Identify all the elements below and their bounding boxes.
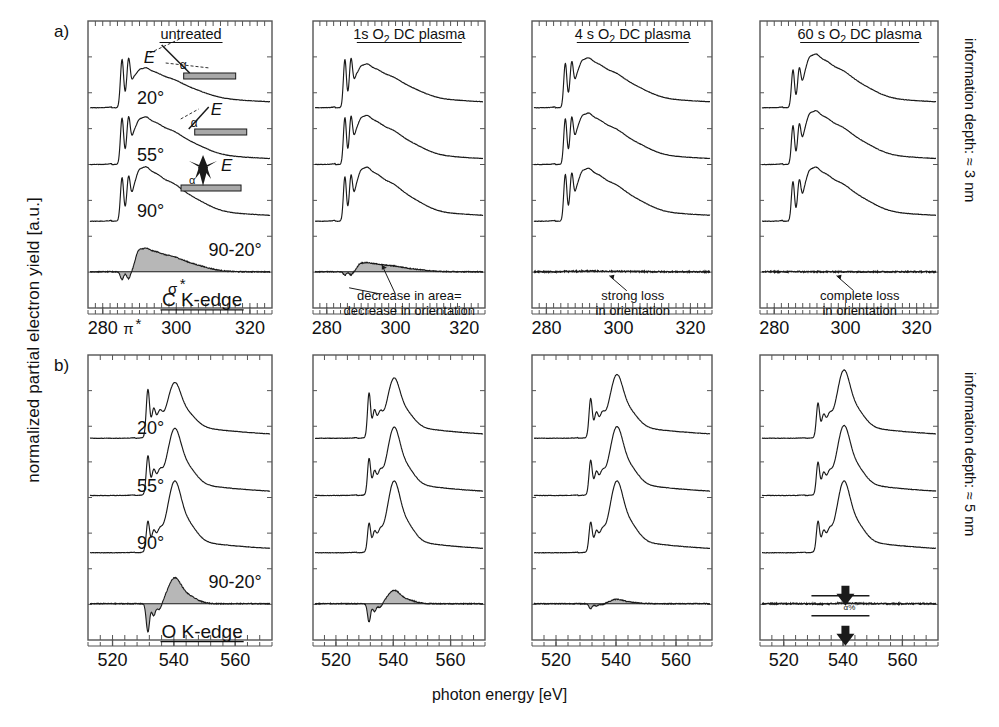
spectrum-trace-55° bbox=[90, 116, 270, 164]
pi-star-asterisk: * bbox=[135, 315, 141, 332]
annotation-line: decrease in area= bbox=[357, 288, 461, 303]
information-depth-row-b: information depth: ≈ 5 nm bbox=[962, 372, 978, 536]
annotation-line: in orientation bbox=[596, 303, 670, 318]
panel-a-2: 2803003201s O2 DC plasmadecrease in area… bbox=[312, 21, 485, 338]
panel-b-4: 520540560α% bbox=[760, 355, 938, 670]
x-tick-label: 520 bbox=[541, 650, 571, 670]
x-tick-label: 560 bbox=[220, 650, 250, 670]
spectrum-trace-20° bbox=[90, 382, 270, 438]
spectrum-trace-90° bbox=[534, 481, 710, 553]
angle-label-20°: 20° bbox=[137, 418, 164, 438]
panel-a-3: 2803003204 s O2 DC plasmastrong lossin o… bbox=[531, 21, 712, 338]
substrate-bar bbox=[184, 73, 236, 79]
e-vector-label: E bbox=[211, 100, 223, 119]
x-tick-label: 520 bbox=[769, 650, 799, 670]
spectrum-trace-20° bbox=[534, 374, 710, 438]
y-axis-label: normalized partial electron yield [a.u.] bbox=[24, 100, 44, 580]
arrow-up-icon bbox=[836, 626, 854, 646]
angle-label-difference: 90-20° bbox=[209, 240, 262, 260]
x-tick-label: 280 bbox=[312, 318, 342, 338]
spectrum-trace-55° bbox=[534, 427, 710, 496]
spectrum-trace-20° bbox=[534, 58, 710, 108]
x-tick-label: 300 bbox=[161, 318, 191, 338]
x-tick-label: 540 bbox=[601, 650, 631, 670]
spectrum-trace-55° bbox=[315, 427, 483, 496]
panel-frame bbox=[532, 355, 712, 640]
information-depth-row-a: information depth: ≈ 3 nm bbox=[962, 38, 978, 202]
x-tick-label: 320 bbox=[235, 318, 265, 338]
pi-star-label: π bbox=[123, 320, 133, 337]
spectrum-trace-90° bbox=[534, 168, 710, 221]
angle-label-20°: 20° bbox=[137, 88, 164, 108]
spectrum-trace-90° bbox=[762, 167, 936, 221]
spectrum-trace-20° bbox=[315, 378, 483, 439]
spectrum-trace-90° bbox=[315, 481, 483, 553]
spectrum-trace-55° bbox=[762, 111, 936, 165]
sigma-star-label: σ bbox=[168, 280, 178, 297]
alpha-label: α bbox=[189, 174, 196, 186]
spectrum-trace-90° bbox=[762, 481, 936, 553]
x-tick-label: 300 bbox=[830, 318, 860, 338]
difference-fill bbox=[315, 590, 483, 622]
angle-label-difference: 90-20° bbox=[209, 572, 262, 592]
sigma-star-asterisk: * bbox=[180, 275, 186, 292]
spectrum-trace-55° bbox=[534, 113, 710, 165]
e-vector-label: E bbox=[221, 156, 233, 175]
spectrum-trace-20° bbox=[315, 58, 483, 108]
figure-root: normalized partial electron yield [a.u.]… bbox=[0, 0, 999, 727]
spectra-plot-canvas: 280300320untreated20°55°90°90-20°C K-edg… bbox=[0, 0, 999, 727]
x-tick-label: 280 bbox=[759, 318, 789, 338]
x-tick-label: 540 bbox=[378, 650, 408, 670]
angle-label-90°: 90° bbox=[137, 201, 164, 221]
geometry-inset-2: Eα bbox=[181, 155, 241, 191]
spectrum-trace-90° bbox=[90, 167, 270, 222]
x-tick-label: 300 bbox=[381, 318, 411, 338]
arrow-measure-label: α% bbox=[844, 603, 856, 612]
alpha-label: α bbox=[180, 58, 187, 72]
x-tick-label: 320 bbox=[675, 318, 705, 338]
annotation-line: in orientation bbox=[822, 303, 896, 318]
edge-label: O K-edge bbox=[161, 621, 242, 642]
panel-b-1: 52054056020°55°90°90-20°O K-edge bbox=[88, 355, 272, 670]
panel-a-4: 28030032060 s O2 DC plasmacomplete lossi… bbox=[759, 21, 938, 338]
spectrum-trace-20° bbox=[762, 370, 936, 439]
alpha-label: α bbox=[191, 116, 198, 130]
spectrum-trace-20° bbox=[762, 54, 936, 108]
x-tick-label: 560 bbox=[436, 650, 466, 670]
spectrum-trace-55° bbox=[762, 425, 936, 495]
row-label-a: a) bbox=[54, 22, 69, 42]
spectrum-trace-55° bbox=[315, 115, 483, 164]
e-vector-label: E bbox=[144, 48, 156, 67]
angle-label-55°: 55° bbox=[137, 476, 164, 496]
x-axis-label: photon energy [eV] bbox=[0, 686, 999, 704]
annotation-line: complete loss bbox=[820, 288, 900, 303]
panel-b-3: 520540560 bbox=[532, 355, 712, 670]
angle-label-55°: 55° bbox=[137, 145, 164, 165]
x-tick-label: 280 bbox=[88, 318, 118, 338]
annotation-line: decrease in orientation bbox=[344, 303, 476, 318]
x-tick-label: 540 bbox=[828, 650, 858, 670]
panel-b-2: 520540560 bbox=[313, 355, 485, 670]
x-tick-label: 320 bbox=[902, 318, 932, 338]
spectrum-trace-90° bbox=[90, 481, 270, 553]
x-tick-label: 560 bbox=[661, 650, 691, 670]
row-label-b: b) bbox=[54, 356, 69, 376]
dashed-guide bbox=[166, 63, 210, 68]
annotation-line: strong loss bbox=[601, 288, 664, 303]
x-tick-label: 520 bbox=[98, 650, 128, 670]
x-tick-label: 280 bbox=[531, 318, 561, 338]
spectrum-trace-90° bbox=[315, 167, 483, 221]
x-tick-label: 540 bbox=[159, 650, 189, 670]
x-tick-label: 320 bbox=[449, 318, 479, 338]
x-tick-label: 300 bbox=[603, 318, 633, 338]
panel-a-1: 280300320untreated20°55°90°90-20°C K-edg… bbox=[88, 21, 272, 338]
x-tick-label: 560 bbox=[887, 650, 917, 670]
e-vector-arrow bbox=[198, 167, 208, 186]
panel-title: untreated bbox=[160, 26, 221, 42]
substrate-bar bbox=[195, 129, 247, 135]
angle-label-90°: 90° bbox=[137, 533, 164, 553]
geometry-inset-1: Eα bbox=[181, 100, 247, 135]
x-tick-label: 520 bbox=[321, 650, 351, 670]
difference-fill bbox=[315, 262, 483, 275]
